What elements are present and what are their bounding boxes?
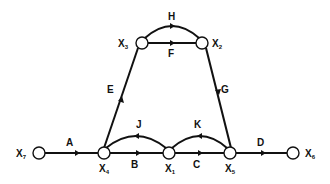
node-label-x1: X1 — [165, 163, 176, 175]
edge-label-e: E — [107, 84, 114, 95]
node-label-x6: X6 — [305, 148, 316, 160]
node-x5 — [224, 147, 236, 159]
arrow-k-icon — [197, 133, 202, 139]
edge-label-j: J — [136, 119, 142, 130]
edge-label-d: D — [257, 137, 264, 148]
edge-label-f: F — [168, 48, 174, 59]
edge-label-b: B — [131, 159, 138, 170]
arrow-j-icon — [134, 133, 139, 139]
node-label-x4: X4 — [99, 163, 110, 175]
arrow-d-icon — [261, 150, 266, 156]
edge-j — [106, 136, 166, 148]
edge-label-k: K — [194, 119, 202, 130]
arrow-a-icon — [75, 150, 80, 156]
node-label-x5: X5 — [225, 163, 236, 175]
arrow-c-icon — [198, 150, 203, 156]
edge-k — [172, 136, 227, 148]
node-x6 — [287, 147, 299, 159]
edge-g — [206, 48, 231, 148]
edge-label-c: C — [193, 159, 200, 170]
edge-label-h: H — [168, 11, 175, 22]
arrow-h-icon — [170, 23, 175, 29]
node-label-x3: X3 — [118, 38, 129, 50]
arrow-b-icon — [136, 150, 141, 156]
arrow-f-icon — [170, 40, 175, 46]
signal-flow-graph: A B C D J K E F H G X7 X4 X1 X5 X6 X3 X2 — [0, 0, 330, 184]
edges — [45, 26, 287, 153]
node-x1 — [163, 147, 175, 159]
node-label-x7: X7 — [16, 148, 27, 160]
node-x4 — [98, 147, 110, 159]
edge-label-a: A — [66, 137, 73, 148]
node-x3 — [136, 37, 148, 49]
node-x7 — [33, 147, 45, 159]
edge-label-g: G — [221, 84, 229, 95]
node-label-x2: X2 — [212, 38, 223, 50]
node-x2 — [196, 37, 208, 49]
arrowheads — [75, 23, 266, 156]
